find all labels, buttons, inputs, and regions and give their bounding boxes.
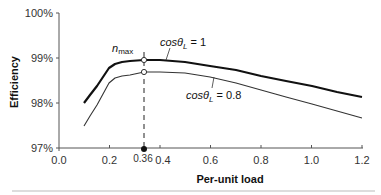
nmax-label: nmax — [112, 42, 133, 56]
y-tick-98: 98% — [31, 97, 53, 109]
nmax-x-marker — [141, 146, 147, 152]
y-ticks: 100% 99% 98% 97% — [25, 7, 59, 154]
x-tick-0.2: 0.2 — [102, 154, 117, 166]
x-tick-0.36: 0.36 — [133, 153, 153, 164]
y-axis-title: Efficiency — [8, 55, 20, 108]
y-tick-100: 100% — [25, 7, 53, 19]
x-tick-0.8: 0.8 — [253, 154, 268, 166]
efficiency-chart: 100% 99% 98% 97% 0.0 0.2 0.4 0.6 0.8 1.0… — [0, 0, 381, 195]
y-tick-97: 97% — [31, 142, 53, 154]
cos-1-leader — [166, 48, 170, 60]
x-axis-title: Per-unit load — [196, 173, 263, 185]
cos-0.8-label: cosθL = 0.8 — [186, 89, 241, 104]
x-tick-0: 0.0 — [51, 154, 66, 166]
cos-1-label: cosθL = 1 — [160, 36, 206, 51]
peak-marker-cos-0.8 — [141, 69, 146, 74]
x-tick-0.6: 0.6 — [203, 154, 218, 166]
peak-marker-cos-1 — [141, 57, 146, 62]
x-tick-1.2: 1.2 — [354, 154, 369, 166]
x-tick-0.4: 0.4 — [155, 154, 170, 166]
cos-0.8-leader — [212, 77, 214, 88]
y-tick-99: 99% — [31, 52, 53, 64]
x-tick-1.0: 1.0 — [304, 154, 319, 166]
